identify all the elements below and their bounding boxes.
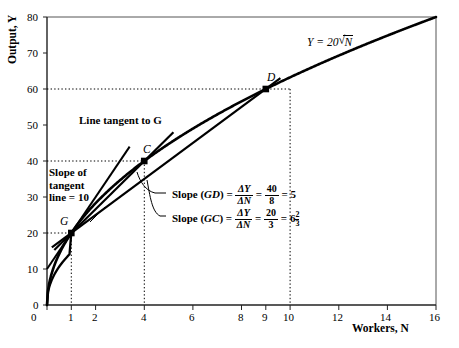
point-marker-C [141,158,148,165]
leader-tangent-slope [90,207,105,222]
slope-gd-frac-num: 40 [265,184,279,196]
tangent-line [47,147,130,269]
slope-gc-ratio: ΔYΔN [235,208,253,230]
slope-gc-pair: GC [204,212,219,224]
slope-tangent-line-3: line = 10 [49,191,89,204]
y-tick-40: 40 [27,155,38,167]
y-axis-title: Output, Y [6,15,18,64]
y-tick-50: 50 [27,119,38,131]
x-tick-9: 9 [262,311,268,323]
y-tick-80: 80 [27,11,38,23]
slope-gd-ratio: ΔYΔN [235,184,253,206]
slope-gd-ratio-den: ΔN [235,196,253,207]
point-marker-D [263,86,270,93]
production-function-curve-main-visible [47,17,436,305]
slope-gc-annotation: Slope (GC) = ΔYΔN = 203 = 623 [172,208,299,230]
slope-gd-annotation: Slope (GD) = ΔYΔN = 408 = 5 [172,184,296,206]
slope-tangent-line-1: Slope of [49,166,89,179]
slope-gc-ratio-den: ΔN [235,220,253,231]
slope-gd-frac: 408 [265,184,279,206]
slope-gd-pair: GD [204,188,220,200]
slope-gc-frac-num: 20 [264,208,278,220]
x-tick-0: 0 [31,311,37,323]
y-tick-70: 70 [27,47,38,59]
x-tick-12: 12 [332,311,343,323]
slope-gc-ratio-num: ΔY [235,208,253,220]
x-tick-10: 10 [283,311,294,323]
slope-gd-frac-den: 8 [265,196,279,207]
slope-gd-prefix: Slope ( [172,188,204,200]
x-tick-2: 2 [92,311,98,323]
y-tick-20: 20 [27,227,38,239]
point-label-C: C [143,143,151,155]
leader-slope-gd [137,172,166,193]
slope-gc-eq2: = [281,212,287,224]
slope-gd-ratio-num: ΔY [235,184,253,196]
point-label-G: G [60,215,68,227]
x-tick-8: 8 [238,311,244,323]
slope-gc-eq1: = [255,212,261,224]
y-tick-30: 30 [27,191,38,203]
slope-gd-eq2: = [281,188,287,200]
leader-slope-gc [147,180,166,216]
slope-gc-mixed-fraction: 23 [295,211,299,228]
x-axis-title: Workers, N [352,322,409,334]
slope-tangent-line-2: tangent [49,179,89,192]
slope-gc-frac-den: 3 [264,220,278,231]
x-tick-4: 4 [141,311,147,323]
slope-gd-eq1: = [256,188,262,200]
slope-gd-result: 5 [290,188,296,200]
tangent-line-label: Line tangent to G [79,114,162,126]
radical-icon: √ [338,33,345,48]
y-tick-10: 10 [27,263,38,275]
chart-figure: Output, Y Workers, N 80 70 60 50 40 30 2… [0,0,459,348]
slope-gc-mixed-den: 3 [295,220,299,228]
point-label-D: D [267,71,275,83]
y-tick-0: 0 [33,299,39,311]
x-tick-16: 16 [429,311,440,323]
slope-tangent-annotation: Slope of tangent line = 10 [49,166,89,204]
equation-label: Y = 20√N [307,34,353,48]
x-tick-1: 1 [68,311,74,323]
x-tick-6: 6 [189,311,195,323]
slope-gd-suffix: ) = [220,188,233,200]
slope-gc-suffix: ) = [219,212,232,224]
slope-gc-prefix: Slope ( [172,212,204,224]
slope-gc-frac: 203 [264,208,278,230]
equation-text: Y = 20 [307,36,338,48]
y-tick-60: 60 [27,83,38,95]
point-marker-G [68,230,75,237]
x-tick-14: 14 [380,311,391,323]
